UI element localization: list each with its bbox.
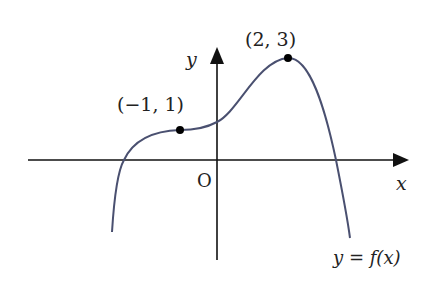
origin-label: O bbox=[197, 170, 212, 191]
y-axis-label: y bbox=[185, 48, 197, 70]
point-2-3 bbox=[284, 54, 292, 62]
curve-f bbox=[112, 58, 350, 238]
point-minus1-1 bbox=[176, 126, 184, 134]
point-a-label: (−1, 1) bbox=[117, 93, 184, 115]
x-axis-arrow-icon bbox=[393, 153, 409, 167]
point-b-label: (2, 3) bbox=[245, 28, 296, 50]
curve-label: y = f(x) bbox=[332, 247, 401, 268]
x-axis-label: x bbox=[396, 172, 407, 194]
y-axis-arrow-icon bbox=[210, 47, 224, 64]
function-graph: y x O (−1, 1) (2, 3) y = f(x) bbox=[0, 0, 433, 284]
